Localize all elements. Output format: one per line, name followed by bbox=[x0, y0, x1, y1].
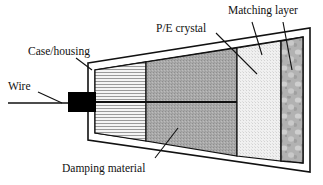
label-pe-crystal: P/E crystal bbox=[156, 22, 206, 35]
matching-layer-region bbox=[281, 37, 303, 163]
wire-connector-block bbox=[68, 92, 96, 112]
leader-wire bbox=[38, 92, 62, 103]
label-case-housing: Case/housing bbox=[28, 45, 90, 58]
matching-layer-fill bbox=[281, 37, 303, 163]
label-matching-layer: Matching layer bbox=[228, 4, 298, 17]
transducer-diagram: Case/housing P/E crystal Matching layer … bbox=[0, 0, 323, 185]
diagram-canvas: Case/housing P/E crystal Matching layer … bbox=[0, 0, 323, 185]
label-damping-material: Damping material bbox=[62, 162, 145, 175]
acoustic-lens-fill bbox=[237, 41, 281, 161]
acoustic-lens-region bbox=[237, 41, 281, 161]
label-wire: Wire bbox=[8, 80, 31, 92]
